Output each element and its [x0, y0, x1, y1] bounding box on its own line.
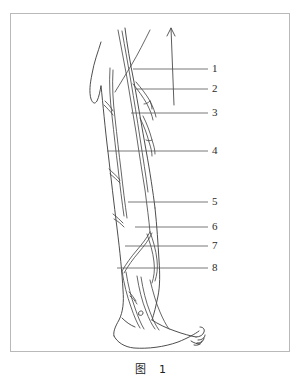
tributary-tick-upper [105, 101, 113, 111]
label-number-3: 3 [212, 107, 218, 118]
label-number-1: 1 [212, 63, 218, 74]
label-number-2: 2 [212, 83, 218, 94]
anterior-shin-contour [152, 208, 160, 320]
malleolus-marker [139, 311, 143, 315]
label-number-7: 7 [212, 240, 218, 251]
posterior-calf-contour [101, 86, 123, 336]
mid-tributary-branch [143, 116, 155, 154]
heel-crease [122, 318, 135, 327]
foot-outline [114, 331, 199, 348]
companion-trunk-vessel [122, 31, 148, 192]
posterior-trunk-vessel [110, 68, 124, 216]
leg-anatomy-drawing [0, 0, 302, 378]
label-number-6: 6 [212, 221, 218, 232]
mid-tributary-arrowhead [146, 140, 152, 141]
posterior-thigh-contour [90, 42, 101, 103]
oblique-crossing-branch [115, 30, 150, 92]
anterior-fork-branch [122, 232, 150, 271]
upward-arrow-icon [167, 28, 175, 105]
upper-tributary-arrowhead [144, 101, 150, 104]
instep-outline [152, 320, 196, 337]
figure-page: 1 2 3 4 5 6 7 8 图 1 [0, 0, 302, 378]
arrow-shaft [171, 28, 174, 105]
anterior-fork-branch-pair [124, 233, 152, 273]
figure-caption: 图 1 [0, 360, 302, 376]
label-number-8: 8 [212, 262, 218, 273]
label-number-4: 4 [212, 145, 218, 156]
label-number-5: 5 [212, 196, 218, 207]
